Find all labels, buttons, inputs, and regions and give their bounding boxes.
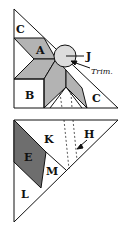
label-k: K: [44, 133, 54, 146]
label-m: M: [46, 165, 58, 178]
label-j: J: [85, 50, 91, 63]
label-b: B: [25, 89, 34, 102]
label-e: E: [24, 151, 32, 164]
label-trim: Trim.: [91, 67, 113, 76]
label-h: H: [84, 128, 94, 141]
label-l: L: [21, 188, 29, 201]
bottom-triangle-diagram: [14, 120, 118, 222]
quilt-diagram: C A J Trim. B C K H E M L: [0, 0, 131, 235]
label-c-top: C: [16, 23, 25, 36]
label-a: A: [35, 44, 45, 57]
label-c-bottom: C: [92, 92, 101, 105]
